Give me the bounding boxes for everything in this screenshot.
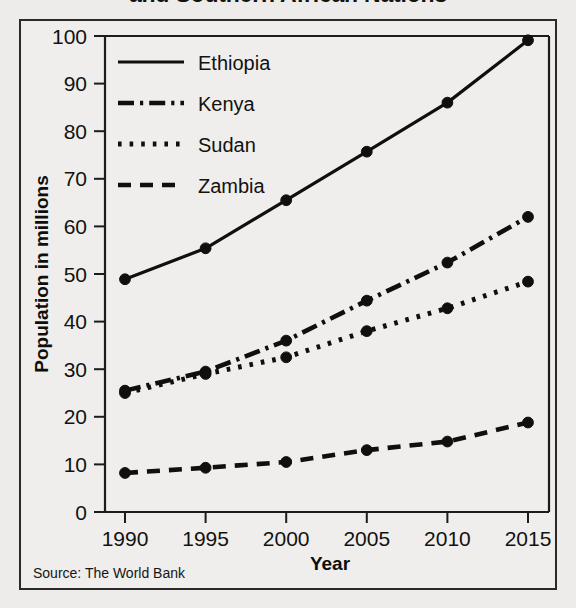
- y-tick-label: 50: [64, 263, 87, 286]
- y-axis-tick-labels: 0102030405060708090100: [52, 25, 87, 524]
- x-tick-label: 2010: [424, 527, 471, 550]
- y-tick-label: 90: [64, 72, 87, 95]
- data-point: [120, 274, 131, 285]
- data-point: [442, 436, 453, 447]
- data-point: [281, 195, 292, 206]
- data-point: [361, 445, 372, 456]
- series-line-ethiopia: [125, 40, 528, 279]
- data-point: [523, 35, 534, 46]
- x-tick-label: 2015: [505, 527, 552, 550]
- data-point: [200, 462, 211, 473]
- source-note: Source: The World Bank: [33, 565, 186, 581]
- chart-canvas: 0102030405060708090100 19901995200020052…: [0, 0, 576, 608]
- y-tick-label: 20: [64, 405, 87, 428]
- line-chart: 0102030405060708090100 19901995200020052…: [0, 0, 576, 608]
- x-axis-tick-labels: 199019952000200520102015: [102, 527, 552, 550]
- y-tick-label: 40: [64, 310, 87, 333]
- y-tick-label: 30: [64, 358, 87, 381]
- data-point: [120, 388, 131, 399]
- x-tick-label: 2000: [263, 527, 310, 550]
- y-tick-label: 10: [64, 453, 87, 476]
- data-point: [523, 417, 534, 428]
- series-sudan: [120, 276, 534, 398]
- data-point: [281, 352, 292, 363]
- x-axis-title: Year: [310, 553, 351, 574]
- data-point: [120, 468, 131, 479]
- x-tick-label: 1995: [182, 527, 229, 550]
- y-axis-ticks: [94, 36, 105, 512]
- y-axis-title: Population in millions: [31, 175, 52, 372]
- data-point: [523, 276, 534, 287]
- data-point: [442, 303, 453, 314]
- y-tick-label: 0: [75, 501, 87, 524]
- legend-label-kenya: Kenya: [198, 93, 256, 115]
- series-kenya: [120, 211, 534, 396]
- data-point: [361, 146, 372, 157]
- y-tick-label: 100: [52, 25, 87, 48]
- data-point: [442, 97, 453, 108]
- x-tick-label: 1990: [102, 527, 149, 550]
- data-point: [200, 369, 211, 380]
- legend-label-sudan: Sudan: [198, 134, 256, 156]
- data-point: [523, 211, 534, 222]
- x-axis-ticks: [125, 512, 528, 523]
- data-point: [361, 326, 372, 337]
- y-tick-label: 80: [64, 120, 87, 143]
- series-line-zambia: [125, 423, 528, 473]
- series-line-kenya: [125, 217, 528, 391]
- y-tick-label: 70: [64, 167, 87, 190]
- data-point: [200, 243, 211, 254]
- chart-legend: EthiopiaKenyaSudanZambia: [118, 52, 271, 197]
- series-zambia: [120, 417, 534, 478]
- legend-label-ethiopia: Ethiopia: [198, 52, 271, 74]
- y-tick-label: 60: [64, 215, 87, 238]
- data-point: [281, 457, 292, 468]
- data-point: [442, 257, 453, 268]
- x-tick-label: 2005: [343, 527, 390, 550]
- legend-label-zambia: Zambia: [198, 175, 266, 197]
- series-line-sudan: [125, 282, 528, 393]
- data-point: [361, 295, 372, 306]
- data-point: [281, 335, 292, 346]
